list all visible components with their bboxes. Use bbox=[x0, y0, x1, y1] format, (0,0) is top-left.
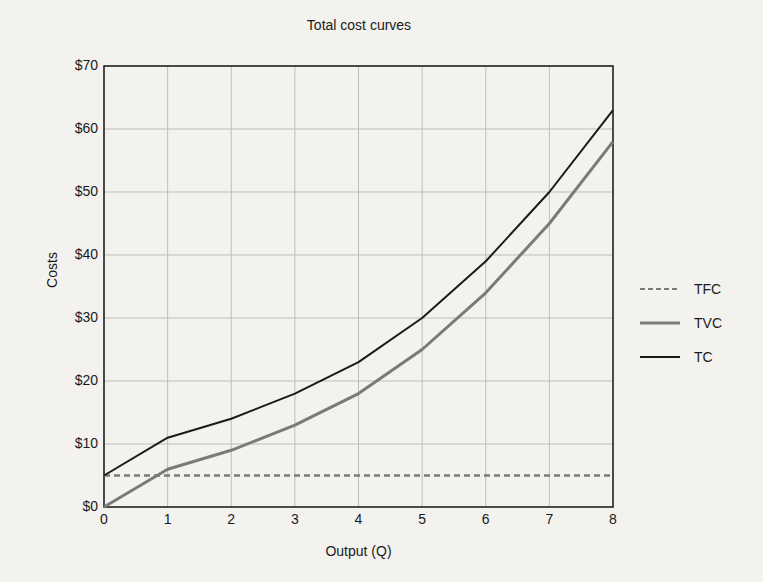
black-line-icon bbox=[640, 354, 680, 360]
legend-label: TFC bbox=[694, 281, 721, 297]
legend-label: TVC bbox=[694, 315, 722, 331]
gray-line-icon bbox=[640, 320, 680, 326]
legend-item-tvc: TVC bbox=[640, 306, 722, 340]
legend: TFC TVC TC bbox=[640, 272, 722, 374]
legend-label: TC bbox=[694, 349, 713, 365]
legend-item-tc: TC bbox=[640, 340, 722, 374]
legend-item-tfc: TFC bbox=[640, 272, 722, 306]
dashed-line-icon bbox=[640, 286, 680, 292]
